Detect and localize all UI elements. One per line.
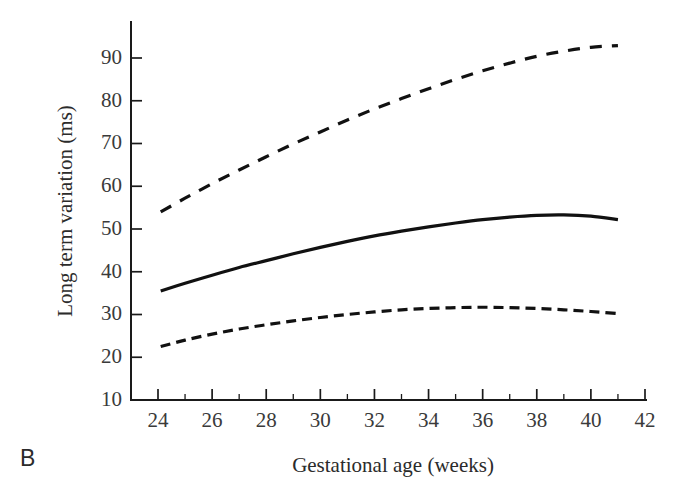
x-tick-label-24: 24 [148, 408, 170, 432]
x-tick-label-30: 30 [310, 408, 331, 432]
y-axis-ticks [131, 58, 142, 400]
x-tick-label-34: 34 [418, 408, 440, 432]
y-tick-label-90: 90 [101, 45, 122, 69]
x-tick-label-32: 32 [364, 408, 385, 432]
y-tick-label-50: 50 [101, 216, 122, 240]
curve-lower-centile [161, 307, 618, 346]
x-tick-label-28: 28 [256, 408, 277, 432]
figure-panel-b: 102030405060708090 24262830323436384042 … [0, 0, 697, 492]
x-tick-label-40: 40 [580, 408, 601, 432]
y-tick-label-70: 70 [101, 130, 122, 154]
chart-canvas: 102030405060708090 24262830323436384042 … [0, 0, 697, 492]
y-tick-label-10: 10 [101, 387, 122, 411]
curve-median [161, 215, 618, 291]
y-tick-label-20: 20 [101, 344, 122, 368]
x-tick-label-36: 36 [472, 408, 493, 432]
x-tick-label-26: 26 [202, 408, 223, 432]
y-tick-label-60: 60 [101, 173, 122, 197]
curve-upper-centile [161, 46, 618, 212]
x-tick-label-42: 42 [635, 408, 656, 432]
y-tick-label-30: 30 [101, 301, 122, 325]
data-curves [161, 46, 618, 347]
x-axis-title: Gestational age (weeks) [292, 453, 494, 477]
x-axis-tick-labels: 24262830323436384042 [148, 408, 656, 432]
y-axis-title: Long term variation (ms) [53, 105, 77, 317]
y-tick-label-80: 80 [101, 88, 122, 112]
x-tick-label-38: 38 [526, 408, 547, 432]
y-axis-tick-labels: 102030405060708090 [101, 45, 122, 411]
axes [131, 22, 646, 400]
panel-label: B [20, 445, 35, 471]
y-tick-label-40: 40 [101, 259, 122, 283]
